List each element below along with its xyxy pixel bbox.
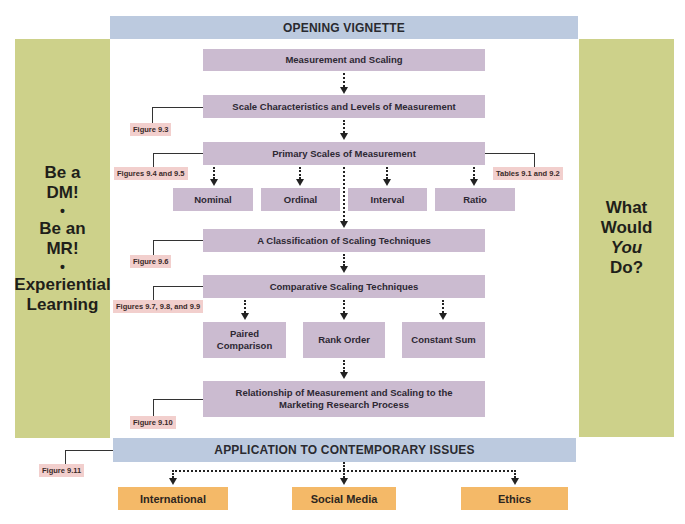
dotted-connector <box>213 167 215 179</box>
arrow-down-icon <box>340 133 348 140</box>
left-panel-line: MR! <box>46 239 78 259</box>
dotted-connector <box>299 167 301 179</box>
box-label: Scale Characteristics and Levels of Meas… <box>232 101 455 113</box>
arrow-down-icon <box>383 179 391 186</box>
dotted-connector <box>343 120 345 133</box>
box-rank-order: Rank Order <box>303 322 385 358</box>
box-label: Interval <box>371 194 405 206</box>
reference-connector <box>152 107 203 123</box>
reference-label: Figure 9.11 <box>42 466 81 475</box>
bullet-separator: • <box>60 259 65 275</box>
right-panel-line: Do? <box>610 258 643 278</box>
reference-connector <box>153 286 203 300</box>
box-constant-sum: Constant Sum <box>402 322 485 358</box>
reference-connector <box>153 153 203 167</box>
dotted-connector <box>343 462 345 470</box>
right-panel-line: Would <box>601 218 653 238</box>
contemporary-issues-title: APPLICATION TO CONTEMPORARY ISSUES <box>214 443 474 457</box>
box-label: Constant Sum <box>411 334 475 346</box>
reference-figure-9-10: Figure 9.10 <box>130 416 176 429</box>
reference-label: Figure 9.3 <box>133 125 168 134</box>
dotted-connector <box>442 300 444 313</box>
dotted-connector <box>514 470 516 478</box>
opening-vignette-header: OPENING VIGNETTE <box>110 16 578 39</box>
arrow-down-icon <box>511 478 519 485</box>
contemporary-issues-header: APPLICATION TO CONTEMPORARY ISSUES <box>113 438 576 462</box>
dotted-connector <box>343 254 345 266</box>
box-ordinal: Ordinal <box>261 188 340 211</box>
arrow-down-icon <box>439 313 447 320</box>
dotted-connector <box>343 73 345 87</box>
arrow-down-icon <box>340 478 348 485</box>
left-panel-line: Experiential <box>14 275 110 295</box>
dotted-connector <box>473 167 475 179</box>
box-ratio: Ratio <box>435 188 515 211</box>
reference-label: Figure 9.6 <box>133 257 168 266</box>
arrow-down-icon <box>340 221 348 228</box>
reference-connector <box>485 153 535 167</box>
box-label: Relationship of Measurement and Scaling … <box>236 387 453 399</box>
box-ethics: Ethics <box>461 487 568 510</box>
reference-label: Figures 9.7, 9.8, and 9.9 <box>116 302 200 311</box>
reference-tables-9-1-9-2: Tables 9.1 and 9.2 <box>493 167 563 180</box>
box-label: Rank Order <box>318 334 370 346</box>
left-panel-line: Be a <box>45 163 81 183</box>
left-panel-line: Be an <box>39 219 85 239</box>
reference-figure-9-3: Figure 9.3 <box>130 123 171 136</box>
box-paired-comparison: Paired Comparison <box>203 322 286 358</box>
arrow-down-icon <box>340 266 348 273</box>
box-label: Ratio <box>463 194 487 206</box>
reference-label: Figures 9.4 and 9.5 <box>117 169 185 178</box>
box-scale-characteristics: Scale Characteristics and Levels of Meas… <box>203 95 485 118</box>
dotted-connector <box>343 300 345 313</box>
reference-connector <box>153 399 203 416</box>
reference-label: Tables 9.1 and 9.2 <box>496 169 560 178</box>
box-primary-scales: Primary Scales of Measurement <box>203 142 485 165</box>
box-interval: Interval <box>348 188 427 211</box>
box-classification: A Classification of Scaling Techniques <box>203 229 485 252</box>
box-label: Nominal <box>194 194 231 206</box>
arrow-down-icon <box>470 179 478 186</box>
arrow-down-icon <box>241 313 249 320</box>
left-panel: Be a DM! • Be an MR! • Experiential Lear… <box>15 39 110 438</box>
bullet-separator: • <box>60 203 65 219</box>
box-social-media: Social Media <box>292 487 396 510</box>
box-measurement-scaling: Measurement and Scaling <box>203 49 485 71</box>
right-panel-line: What <box>606 198 648 218</box>
reference-label: Figure 9.10 <box>133 418 173 427</box>
reference-connector <box>153 240 203 255</box>
arrow-down-icon <box>340 313 348 320</box>
reference-figures-9-4-9-5: Figures 9.4 and 9.5 <box>114 167 188 180</box>
opening-vignette-title: OPENING VIGNETTE <box>283 21 405 35</box>
box-relationship: Relationship of Measurement and Scaling … <box>203 381 485 417</box>
dotted-connector <box>386 167 388 179</box>
arrow-down-icon <box>169 478 177 485</box>
reference-figures-9-7-9-8-9-9: Figures 9.7, 9.8, and 9.9 <box>113 300 203 313</box>
dotted-connector <box>244 300 246 313</box>
left-panel-line: DM! <box>46 183 78 203</box>
box-nominal: Nominal <box>173 188 253 211</box>
box-label: International <box>140 493 206 505</box>
dotted-connector <box>343 470 345 478</box>
box-label: Comparative Scaling Techniques <box>270 281 419 293</box>
reference-figure-9-11: Figure 9.11 <box>39 464 84 477</box>
box-label: Measurement and Scaling <box>285 54 402 66</box>
box-label: Ordinal <box>284 194 317 206</box>
arrow-down-icon <box>296 179 304 186</box>
arrow-down-icon <box>210 179 218 186</box>
box-label: Ethics <box>498 493 531 505</box>
dotted-connector <box>343 167 345 221</box>
box-comparative-scaling: Comparative Scaling Techniques <box>203 275 485 298</box>
box-label: Primary Scales of Measurement <box>272 148 416 160</box>
box-label: Social Media <box>311 493 378 505</box>
dotted-connector <box>172 470 174 478</box>
right-panel: What Would You Do? <box>579 39 674 437</box>
box-international: International <box>118 487 228 510</box>
box-label: Marketing Research Process <box>279 399 409 411</box>
box-label: A Classification of Scaling Techniques <box>257 235 431 247</box>
arrow-down-icon <box>340 87 348 94</box>
reference-figure-9-6: Figure 9.6 <box>130 255 171 268</box>
reference-connector <box>65 450 113 464</box>
dotted-connector <box>343 360 345 372</box>
right-panel-line: You <box>611 238 642 258</box>
